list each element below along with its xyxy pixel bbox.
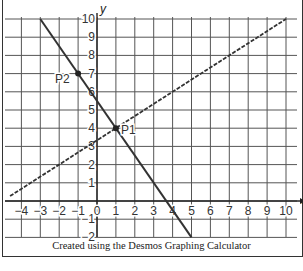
y-tick-label: 1 — [88, 176, 95, 190]
point-label-p1: P1 — [121, 123, 136, 137]
y-tick-label: 5 — [88, 103, 95, 117]
caption: Created using the Desmos Graphing Calcul… — [0, 240, 303, 251]
x-tick-label: 9 — [264, 204, 271, 218]
x-tick-label: −2 — [52, 204, 66, 218]
point-label-p2: P2 — [55, 72, 70, 86]
y-tick-label: 10 — [82, 12, 96, 26]
x-tick-label: 7 — [226, 204, 233, 218]
x-tick-label: 6 — [207, 204, 214, 218]
y-tick-label: 9 — [88, 30, 95, 44]
x-tick-label: 3 — [150, 204, 157, 218]
y-tick-label: 4 — [88, 121, 95, 135]
x-tick-label: 10 — [279, 204, 293, 218]
x-tick-label: 2 — [131, 204, 138, 218]
y-tick-label: 2 — [88, 158, 95, 172]
y-tick-label: 8 — [88, 48, 95, 62]
x-axis-label: x — [301, 193, 303, 207]
y-axis-label: y — [99, 2, 107, 16]
x-tick-label: 1 — [113, 204, 120, 218]
point-p1 — [113, 125, 119, 131]
x-tick-label: 8 — [245, 204, 252, 218]
dashed-line — [10, 19, 286, 196]
y-tick-label: 7 — [88, 67, 95, 81]
y-tick-label: −1 — [81, 212, 95, 226]
x-tick-label: 5 — [188, 204, 195, 218]
graph-plot: xy−4−3−2−1012345678910−2−112345678910P1P… — [0, 0, 303, 271]
x-tick-label: −3 — [33, 204, 47, 218]
point-p2 — [75, 71, 81, 77]
x-tick-label: −4 — [15, 204, 29, 218]
